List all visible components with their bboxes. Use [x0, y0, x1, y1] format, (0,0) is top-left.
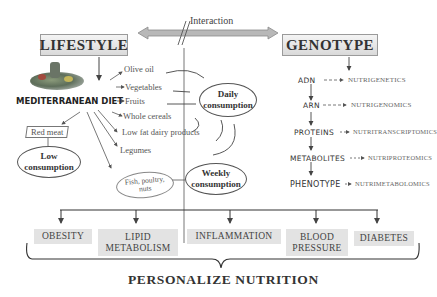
- omics-nutrimetabolomics: NUTRIMETABOLOMICS: [355, 180, 430, 187]
- food-item: Legumes: [120, 145, 151, 155]
- outcome-label: METABOLISM: [105, 243, 170, 254]
- genotype-level-metabolites: METABOLITES: [290, 154, 345, 163]
- personalize-nutrition-title: PERSONALIZE NUTRITION: [128, 272, 319, 288]
- low-consumption-line1: Low: [24, 151, 74, 162]
- genotype-box: GENOTYPE: [282, 34, 378, 56]
- omics-nutrigenomics: NUTRIGENOMICS: [351, 101, 412, 109]
- genotype-level-proteins: PROTEINS: [294, 128, 334, 137]
- outcome-inflammation: INFLAMMATION: [187, 229, 281, 244]
- low-consumption-line2: consumption: [24, 162, 74, 173]
- outcome-diabetes: DIABETES: [354, 231, 414, 246]
- outcome-label: OBESITY: [42, 231, 84, 242]
- weekly-consumption-line1: Weekly: [191, 168, 241, 179]
- red-meat-label: Red meat: [31, 127, 63, 137]
- outcome-label: INFLAMMATION: [196, 231, 273, 242]
- genotype-level-adn: ADN: [298, 76, 315, 85]
- curly-brace: [27, 243, 420, 268]
- low-consumption-ellipse: Low consumption: [17, 146, 81, 178]
- food-item: Low fat dairy products: [122, 127, 200, 137]
- omics-nutriproteomics: NUTRIPROTEOMICS: [368, 154, 432, 161]
- food-item: Fruits: [125, 96, 145, 106]
- lifestyle-box: LIFESTYLE: [40, 34, 128, 56]
- daily-consumption-line1: Daily: [203, 89, 253, 100]
- genotype-level-arn: ARN: [303, 101, 320, 110]
- omics-nutrigenetics: NUTRIGENETICS: [348, 76, 406, 84]
- red-meat-box: Red meat: [25, 126, 69, 138]
- outcome-label: DIABETES: [360, 233, 408, 244]
- food-item: Olive oil: [124, 64, 154, 74]
- food-item: Vegetables: [125, 82, 162, 92]
- omics-nutritranscriptomics: NUTRITRANSCRIPTOMICS: [353, 128, 437, 135]
- weekly-consumption-ellipse: Weekly consumption: [185, 163, 247, 195]
- mediterranean-diet-title: MEDITERRANEAN DIET: [16, 96, 123, 106]
- outcome-blood-pressure: BLOOD PRESSURE: [286, 229, 348, 256]
- weekly-consumption-line2: consumption: [191, 179, 241, 190]
- genotype-level-phenotype: PHENOTYPE: [290, 180, 341, 189]
- interaction-label: Interaction: [190, 15, 233, 26]
- outcome-label: LIPID: [105, 232, 170, 243]
- outcome-lipid-metabolism: LIPID METABOLISM: [98, 229, 178, 256]
- daily-consumption-ellipse: Daily consumption: [199, 83, 257, 117]
- daily-consumption-line2: consumption: [203, 100, 253, 111]
- outcome-obesity: OBESITY: [34, 229, 92, 244]
- food-item: Whole cereals: [123, 111, 171, 121]
- outcome-label: BLOOD: [292, 232, 341, 243]
- outcome-label: PRESSURE: [292, 243, 341, 254]
- food-basket-image: [28, 60, 86, 92]
